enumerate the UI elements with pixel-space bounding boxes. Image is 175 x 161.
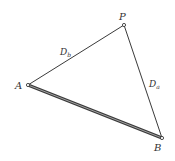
edge-a-p-label: Db: [59, 47, 71, 58]
vertex-b-label: B: [153, 142, 161, 153]
vertex-b-marker: [160, 136, 163, 139]
edge-a-b: [28, 85, 162, 138]
vertex-a-label: A: [14, 80, 22, 91]
vertex-p-marker: [122, 23, 125, 26]
edge-p-b-label: Da: [148, 79, 160, 90]
triangle-diagram: P A B Db Da: [0, 0, 175, 161]
edge-a-p: [28, 25, 124, 85]
vertex-a-marker: [26, 83, 29, 86]
edge-p-b: [124, 25, 162, 138]
vertex-p-label: P: [118, 11, 126, 22]
